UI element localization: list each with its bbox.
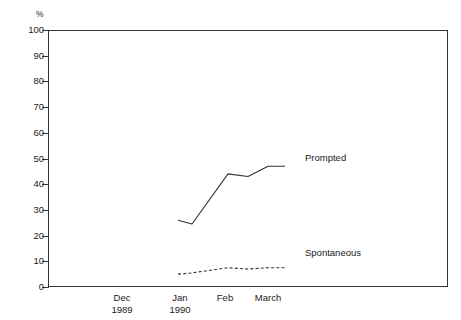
y-axis-tick-label: 30 xyxy=(0,204,44,216)
y-axis-tick-mark xyxy=(42,184,49,185)
y-axis-tick-label: 0 xyxy=(0,281,44,293)
y-axis-tick-label: 80 xyxy=(0,75,44,87)
y-axis-tick-label: 60 xyxy=(0,127,44,139)
y-axis-tick-mark xyxy=(42,159,49,160)
y-axis-tick-label: 50 xyxy=(0,153,44,165)
y-axis-tick-mark xyxy=(42,30,49,31)
y-axis-tick-mark xyxy=(42,210,49,211)
y-axis-tick-label: 100 xyxy=(0,24,44,36)
y-axis-tick-label: 40 xyxy=(0,178,44,190)
y-axis-tick-label: 10 xyxy=(0,255,44,267)
y-axis-tick-label: 70 xyxy=(0,101,44,113)
y-axis-tick-mark xyxy=(42,133,49,134)
y-axis-tick-mark xyxy=(42,81,49,82)
x-axis-tick-label: March xyxy=(233,292,303,304)
x-axis-tick-label-line1: March xyxy=(233,292,303,304)
series-label-spontaneous: Spontaneous xyxy=(305,247,361,259)
y-axis-tick-mark xyxy=(42,107,49,108)
y-axis-tick-mark xyxy=(42,287,49,288)
plot-frame xyxy=(48,30,448,287)
x-axis-tick-label-line2: 1990 xyxy=(145,304,215,316)
y-axis-tick-mark xyxy=(42,236,49,237)
y-axis-unit-label: % xyxy=(36,9,44,19)
y-axis-tick-mark xyxy=(42,56,49,57)
y-axis-tick-label: 20 xyxy=(0,230,44,242)
chart-screenshot: % 1009080706050403020100 Dec1989Jan1990F… xyxy=(0,0,461,320)
series-label-prompted: Prompted xyxy=(305,152,346,164)
y-axis-tick-label: 90 xyxy=(0,50,44,62)
y-axis-tick-mark xyxy=(42,261,49,262)
